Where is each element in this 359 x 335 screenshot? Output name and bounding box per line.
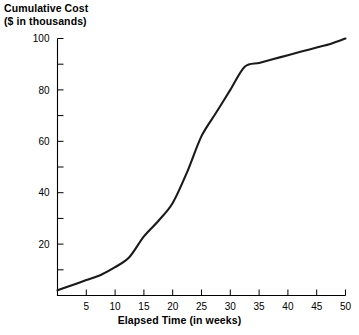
y-tick-label: 20 [38,239,50,250]
y-tick-label: 60 [38,136,50,147]
x-tick-label: 10 [110,301,122,312]
x-tick-label: 50 [340,301,352,312]
y-axis-ticks [58,39,64,270]
x-tick-label: 15 [138,301,150,312]
cumulative-cost-chart: Cumulative Cost($ in thousands) 20406080… [0,0,359,335]
axes: 20406080100 5101520253035404550 [33,33,352,311]
plot-area: 20406080100 5101520253035404550 [0,0,359,335]
x-axis-ticks [86,290,345,296]
x-tick-label: 40 [282,301,294,312]
y-tick-label: 80 [38,85,50,96]
x-axis-title: Elapsed Time (in weeks) [0,314,359,326]
cumulative-cost-curve [58,39,346,291]
x-axis-tick-labels: 5101520253035404550 [84,301,352,312]
x-tick-label: 35 [254,301,266,312]
x-tick-label: 5 [84,301,90,312]
x-tick-label: 25 [196,301,208,312]
x-tick-label: 20 [167,301,179,312]
x-tick-label: 45 [311,301,323,312]
y-axis-tick-labels: 20406080100 [33,33,50,250]
axis-lines [58,39,346,296]
y-tick-label: 40 [38,187,50,198]
x-tick-label: 30 [225,301,237,312]
y-tick-label: 100 [33,33,50,44]
